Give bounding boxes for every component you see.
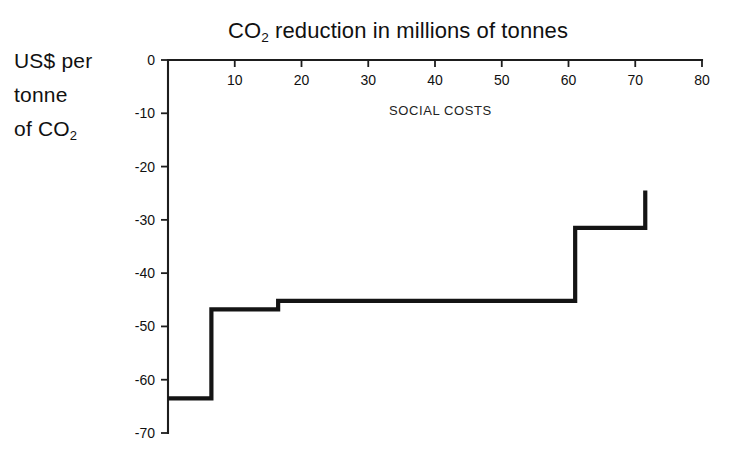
y-tick-label: -40 bbox=[135, 265, 155, 281]
x-tick-label: 50 bbox=[494, 72, 510, 88]
chart-page: US$ per tonne of CO2 CO2 reduction in mi… bbox=[0, 0, 733, 463]
x-tick-label: 70 bbox=[627, 72, 643, 88]
y-tick-label: -50 bbox=[135, 318, 155, 334]
x-axis-ticks: 1020304050607080 bbox=[168, 60, 710, 88]
x-tick-label: 10 bbox=[227, 72, 243, 88]
y-tick-label: -60 bbox=[135, 372, 155, 388]
x-tick-label: 80 bbox=[694, 72, 710, 88]
y-tick-label: -10 bbox=[135, 105, 155, 121]
x-tick-label: 40 bbox=[427, 72, 443, 88]
y-tick-label: -70 bbox=[135, 425, 155, 441]
y-tick-label: -30 bbox=[135, 212, 155, 228]
y-axis-ticks: 0-10-20-30-40-50-60-70 bbox=[135, 52, 168, 441]
step-series-line bbox=[168, 191, 645, 399]
x-tick-label: 20 bbox=[294, 72, 310, 88]
x-tick-label: 30 bbox=[360, 72, 376, 88]
x-tick-label: 60 bbox=[561, 72, 577, 88]
plot-area: 1020304050607080 0-10-20-30-40-50-60-70 bbox=[0, 0, 733, 463]
y-tick-label: 0 bbox=[147, 52, 155, 68]
y-tick-label: -20 bbox=[135, 159, 155, 175]
